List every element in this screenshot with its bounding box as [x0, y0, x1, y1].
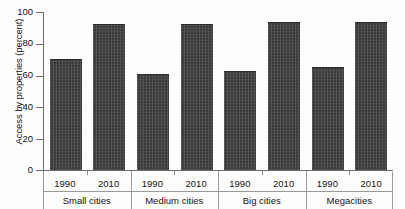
x-group-label: Medium cities [145, 195, 203, 206]
group-label-cell: Medium cities [131, 192, 219, 209]
x-tick-label-year: 1990 [317, 178, 338, 189]
bar[interactable] [355, 22, 387, 170]
group-label-cell: Small cities [43, 192, 131, 209]
bar[interactable] [224, 71, 256, 170]
x-tick-label-year: 2010 [273, 178, 294, 189]
x-tick-mark [87, 171, 88, 175]
y-tick-label-40: 40 [22, 101, 33, 112]
y-tick-label-80: 80 [22, 37, 33, 48]
bar-group [131, 12, 218, 170]
y-tick-label-0: 0 [28, 164, 33, 175]
x-tick-label-year: 2010 [98, 178, 119, 189]
group-separator [131, 172, 132, 209]
bar[interactable] [93, 24, 125, 170]
group-label-cell: Big cities [218, 192, 306, 209]
year-label-cell: 19902010 [131, 176, 219, 191]
x-group-label: Small cities [63, 195, 111, 206]
group-separator [218, 172, 219, 209]
x-axis-labels: 19902010199020101990201019902010 Small c… [43, 171, 393, 209]
bar-group [219, 12, 306, 170]
y-tick-label-60: 60 [22, 69, 33, 80]
group-separator [43, 172, 44, 209]
x-tick-label-year: 2010 [361, 178, 382, 189]
bar[interactable] [50, 59, 82, 170]
x-tick-label-year: 1990 [142, 178, 163, 189]
x-group-label: Big cities [243, 195, 281, 206]
x-tick-mark [349, 171, 350, 175]
year-label-cell: 19902010 [43, 176, 131, 191]
x-tick-label-year: 1990 [54, 178, 75, 189]
x-tick-mark [262, 171, 263, 175]
bar-group [306, 12, 393, 170]
y-tick-80: 80 [36, 44, 43, 45]
y-tick-20: 20 [36, 139, 43, 140]
group-separator [306, 172, 307, 209]
bar-group [44, 12, 131, 170]
group-label-cell: Megacities [306, 192, 394, 209]
bar-chart: Access by properties (percent) 100 80 60… [0, 0, 405, 209]
bar[interactable] [268, 22, 300, 170]
year-label-cell: 19902010 [306, 176, 394, 191]
y-tick-label-20: 20 [22, 133, 33, 144]
plot-area: 100 80 60 40 20 0 [43, 12, 393, 171]
x-tick-label-year: 1990 [229, 178, 250, 189]
bar[interactable] [312, 67, 344, 170]
bar[interactable] [181, 24, 213, 170]
y-tick-label-100: 100 [17, 6, 33, 17]
y-tick-0: 0 [36, 170, 43, 171]
year-label-cell: 19902010 [218, 176, 306, 191]
x-tick-mark [174, 171, 175, 175]
x-group-label: Megacities [327, 195, 372, 206]
bars-layer [44, 12, 393, 170]
bar[interactable] [137, 74, 169, 170]
group-separator [392, 172, 393, 209]
y-tick-100: 100 [36, 12, 43, 13]
y-tick-40: 40 [36, 107, 43, 108]
x-tick-label-year: 2010 [186, 178, 207, 189]
y-tick-60: 60 [36, 76, 43, 77]
